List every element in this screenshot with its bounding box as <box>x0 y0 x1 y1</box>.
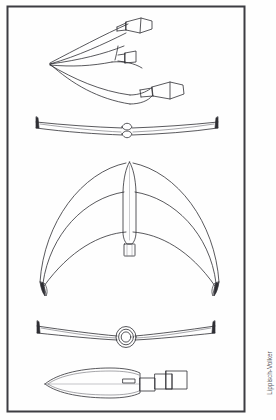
sheet-background <box>0 0 276 420</box>
credit-caption: Lippisch-Volker <box>262 328 276 418</box>
drawing-sheet: Lippisch-Volker <box>0 0 276 420</box>
technical-drawing-svg <box>0 0 276 420</box>
credit-caption-text: Lippisch-Volker <box>266 351 273 394</box>
